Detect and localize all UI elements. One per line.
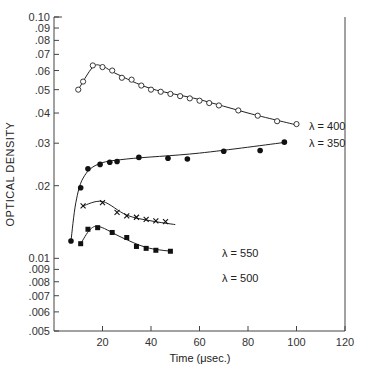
filled-circle-marker <box>85 166 91 172</box>
filled-square-marker <box>85 227 90 232</box>
filled-square-marker <box>124 235 129 240</box>
filled-circle-marker <box>185 156 191 162</box>
open-circle-marker <box>168 91 173 96</box>
x-marker <box>100 200 105 205</box>
open-circle-marker <box>119 75 124 80</box>
open-circle-marker <box>110 68 115 73</box>
series-label: λ = 350 <box>309 137 345 149</box>
fit-curve-350 <box>71 142 287 241</box>
y-tick-label: .006 <box>29 306 50 318</box>
open-circle-marker <box>100 65 105 70</box>
open-circle-marker <box>207 100 212 105</box>
open-circle-marker <box>129 77 134 82</box>
series-label: λ = 400 <box>309 120 345 132</box>
y-tick-label: .09 <box>35 22 50 34</box>
open-circle-marker <box>197 98 202 103</box>
filled-circle-marker <box>107 160 113 166</box>
x-marker <box>115 210 120 215</box>
filled-circle-marker <box>68 238 74 244</box>
open-circle-marker <box>236 108 241 113</box>
filled-circle-marker <box>282 139 288 145</box>
open-circle-marker <box>187 96 192 101</box>
filled-square-marker <box>134 244 139 249</box>
x-tick-label: 100 <box>287 336 305 348</box>
open-circle-marker <box>275 119 280 124</box>
data-points <box>68 63 299 254</box>
y-tick-label: .009 <box>29 263 50 275</box>
series-label: λ = 550 <box>222 247 258 259</box>
x-axis-label: Time (μsec.) <box>170 352 231 364</box>
y-tick-label: .05 <box>35 84 50 96</box>
y-tick-label: .07 <box>35 48 50 60</box>
open-circle-marker <box>76 87 81 92</box>
fit-curve-400 <box>78 65 299 126</box>
y-tick-label: .03 <box>35 137 50 149</box>
open-circle-marker <box>178 94 183 99</box>
y-tick-label: .02 <box>35 180 50 192</box>
x-marker <box>153 218 158 223</box>
filled-square-marker <box>110 230 115 235</box>
open-circle-marker <box>158 89 163 94</box>
filled-circle-marker <box>97 162 103 168</box>
y-tick-label: .08 <box>35 34 50 46</box>
filled-square-marker <box>168 249 173 254</box>
x-tick-label: 60 <box>193 336 205 348</box>
filled-circle-marker <box>221 148 227 154</box>
x-tick-label: 20 <box>96 336 108 348</box>
filled-square-marker <box>153 248 158 253</box>
fit-curve-550 <box>83 201 175 224</box>
chart: 0.10.09.08.07.06.05.04.03.020.01.009.008… <box>0 0 367 378</box>
y-tick-label: .005 <box>29 325 50 337</box>
x-marker <box>81 203 86 208</box>
filled-square-marker <box>144 246 149 251</box>
filled-circle-marker <box>78 185 84 191</box>
y-tick-label: .007 <box>29 290 50 302</box>
filled-circle-marker <box>257 148 263 154</box>
open-circle-marker <box>90 63 95 68</box>
open-circle-marker <box>148 87 153 92</box>
open-circle-marker <box>216 103 221 108</box>
y-tick-label: .04 <box>35 107 50 119</box>
filled-square-marker <box>95 225 100 230</box>
x-tick-label: 40 <box>145 336 157 348</box>
open-circle-marker <box>139 83 144 88</box>
filled-circle-marker <box>114 159 120 165</box>
y-tick-label: .008 <box>29 276 50 288</box>
y-tick-label: .06 <box>35 65 50 77</box>
series-label: λ = 500 <box>222 272 258 284</box>
x-tick-label: 120 <box>336 336 354 348</box>
axes: 0.10.09.08.07.06.05.04.03.020.01.009.008… <box>4 11 354 364</box>
open-circle-marker <box>294 121 299 126</box>
filled-circle-marker <box>165 155 171 161</box>
open-circle-marker <box>81 79 86 84</box>
open-circle-marker <box>255 113 260 118</box>
x-tick-label: 80 <box>242 336 254 348</box>
plot-frame <box>54 17 345 331</box>
y-axis-label: OPTICAL DENSITY <box>4 121 16 226</box>
filled-square-marker <box>78 241 83 246</box>
filled-circle-marker <box>136 155 142 161</box>
